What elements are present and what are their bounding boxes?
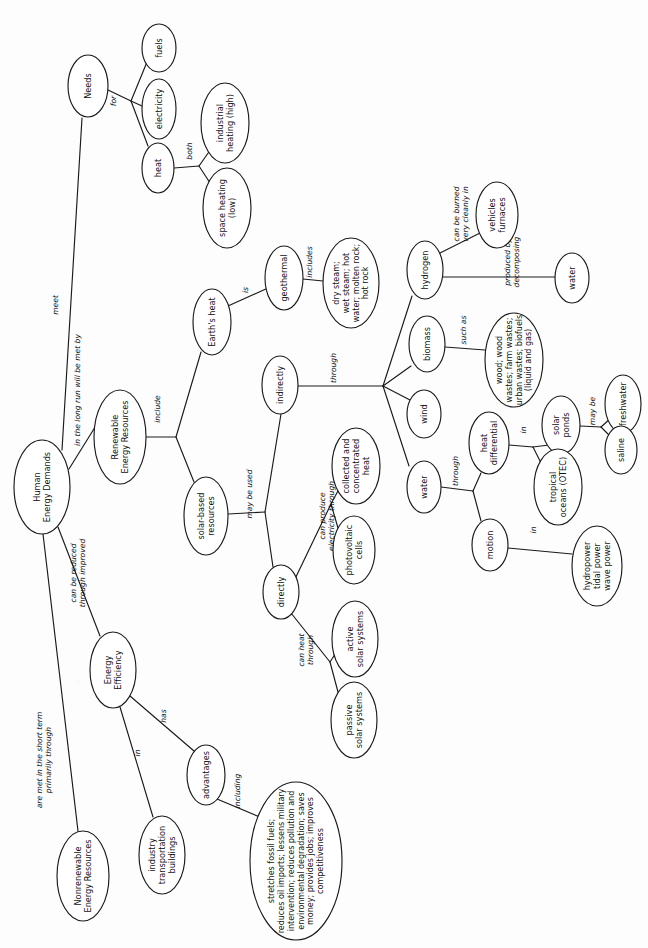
svg-text:may be: may be [588, 396, 597, 425]
edge-heat-to-junction_heat [174, 166, 199, 168]
node-nonrenewable_energy_resources[interactable]: NonrenewableEnergy Resources [57, 831, 109, 921]
node-label-indirectly: indirectly [275, 366, 285, 404]
edge-junction_rer-to-earths_heat [176, 352, 201, 437]
node-label-needs: Needs [83, 73, 93, 99]
svg-text:can be reducedthrough improved: can be reducedthrough improved [69, 539, 87, 608]
svg-text:in: in [133, 749, 142, 756]
edge-heat_differential-to-junction_hd [509, 445, 533, 447]
concept-map-canvas: meetforbothin the long run will be met b… [0, 0, 648, 948]
node-photovoltaic_cells[interactable]: photovoltaiccells [333, 516, 375, 584]
node-label-directly: directly [276, 577, 286, 608]
edge-label-solar_based_resources-to-junction_sbr: may be used [245, 469, 254, 518]
svg-text:such as: such as [459, 316, 468, 345]
edge-label-directly-to-junction_solar_heat: can heatthrough [297, 632, 315, 666]
edge-label-motion-to-hydro_tidal_wave: in [529, 526, 538, 533]
edge-junction_sbr-to-indirectly [265, 414, 281, 512]
svg-text:are met in the short termprima: are met in the short termprimarily throu… [35, 712, 53, 809]
edge-junction_indirect-to-hydrogen [383, 296, 412, 386]
node-indirectly[interactable]: indirectly [262, 356, 298, 414]
edge-label-heat_differential-to-junction_hd: in [519, 426, 528, 433]
svg-text:motion: motion [485, 531, 495, 560]
svg-text:advantages: advantages [201, 751, 211, 799]
node-earths_heat[interactable]: Earth's heat [193, 289, 231, 355]
node-saline[interactable]: saline [605, 426, 637, 474]
edge-junction_water-to-heat_differential [473, 473, 481, 491]
svg-text:in: in [529, 526, 538, 533]
node-industrial_heating[interactable]: industrialheating (high) [201, 83, 249, 163]
node-water_h2[interactable]: water [555, 253, 589, 303]
svg-text:saline: saline [616, 438, 626, 462]
edge-label-advantages-to-advantages_list: including [233, 774, 242, 809]
node-active_solar_systems[interactable]: activesolar systems [332, 601, 378, 677]
node-collected_concentrated_heat[interactable]: collected andconcentratedheat [332, 428, 380, 504]
node-passive_solar_systems[interactable]: passivesolar systems [331, 682, 377, 758]
node-needs[interactable]: Needs [68, 55, 108, 117]
edge-label-human_energy_demands-to-energy_efficiency: can be reducedthrough improved [69, 539, 87, 608]
node-industry_transportation_buildings[interactable]: industrytransportationbuildings [139, 816, 185, 894]
node-electricity[interactable]: electricity [142, 79, 176, 139]
svg-text:EnergyEfficiency: EnergyEfficiency [103, 650, 123, 690]
node-heat_differential[interactable]: heatdifferential [469, 412, 509, 474]
node-geothermal_types[interactable]: dry steam;wet steam; hotwater; molten ro… [323, 238, 379, 328]
node-energy_efficiency[interactable]: EnergyEfficiency [90, 632, 136, 708]
svg-text:vehiclesfurnaces: vehiclesfurnaces [487, 197, 507, 232]
node-solar_based_resources[interactable]: solar-basedresources [184, 477, 228, 555]
svg-text:meet: meet [51, 294, 60, 315]
node-label-freshwater: freshwater [618, 381, 628, 426]
edge-label-indirectly-to-junction_indirect: through [329, 353, 338, 383]
node-label-vehicles_furnaces: vehiclesfurnaces [487, 197, 507, 232]
node-wind[interactable]: wind [407, 390, 441, 438]
node-water[interactable]: water [407, 461, 441, 513]
edge-geothermal-to-geothermal_types [303, 279, 323, 281]
node-directly[interactable]: directly [263, 565, 299, 619]
svg-text:include: include [153, 395, 162, 423]
svg-text:fuels: fuels [154, 38, 164, 58]
node-tropical_oceans[interactable]: tropicaloceans (OTEC) [534, 449, 582, 525]
svg-text:electricity: electricity [154, 89, 164, 130]
node-advantages_list[interactable]: stretches fossil fuels;reduces oil impor… [250, 782, 342, 940]
node-renewable_energy_resources[interactable]: RenewableEnergy Resources [94, 390, 146, 484]
node-solar_ponds[interactable]: solarponds [542, 396, 580, 454]
edge-label-human_energy_demands-to-renewable_energy_resources: in the long run will be met by [73, 334, 82, 446]
node-label-electricity: electricity [154, 89, 164, 130]
node-advantages[interactable]: advantages [187, 745, 225, 805]
node-vehicles_furnaces[interactable]: vehiclesfurnaces [476, 182, 518, 248]
svg-text:directly: directly [276, 577, 286, 608]
node-human_energy_demands[interactable]: HumanEnergy Demands [14, 440, 70, 534]
edge-junction_indirect-to-biomass [383, 366, 411, 386]
edge-junction_sbr-to-directly [265, 512, 273, 567]
node-motion[interactable]: motion [472, 519, 508, 571]
edge-label-renewable_energy_resources-to-junction_rer: include [153, 395, 162, 423]
svg-text:in: in [519, 426, 528, 433]
svg-text:for: for [109, 95, 118, 106]
edge-junction_rer-to-solar_based_resources [176, 437, 194, 482]
svg-text:solarponds: solarponds [551, 413, 571, 438]
node-geothermal[interactable]: geothermal [265, 246, 303, 310]
node-heat[interactable]: heat [142, 143, 174, 193]
node-fuels[interactable]: fuels [142, 24, 176, 72]
edge-label-energy_efficiency-to-advantages: has [159, 709, 168, 722]
edge-biomass-to-biomass_types [445, 347, 485, 350]
node-biomass[interactable]: biomass [409, 316, 445, 372]
edge-label-heat-to-junction_heat: both [185, 142, 194, 159]
node-label-wind: wind [419, 404, 429, 423]
edge-label-water-to-junction_water: through [451, 456, 460, 486]
edge-label-solar_ponds-to-junction_sp: may be [588, 396, 597, 425]
svg-text:in the long run will be met by: in the long run will be met by [73, 334, 82, 446]
svg-text:can be burnedvery cleanly in: can be burnedvery cleanly in [452, 186, 470, 242]
edge-junction_water-to-motion [473, 491, 481, 521]
edge-junction_hd-to-solar_ponds [533, 445, 549, 447]
edge-label-earths_heat-to-geothermal: is [241, 287, 250, 293]
node-hydro_tidal_wave[interactable]: hydropowertidal powerwave power [572, 526, 622, 606]
node-hydrogen[interactable]: hydrogen [407, 241, 443, 299]
edge-energy_efficiency-to-industry_transportation_buildings [120, 707, 153, 817]
svg-text:water: water [567, 266, 577, 290]
node-space_heating[interactable]: space heating(low) [203, 168, 251, 248]
svg-text:through: through [451, 456, 460, 486]
node-biomass_types[interactable]: wood; woodwastes; farm wastes;urban wast… [485, 313, 543, 407]
node-freshwater[interactable]: freshwater [605, 375, 641, 433]
node-label-advantages: advantages [201, 751, 211, 799]
edge-water-to-junction_water [441, 487, 473, 491]
node-label-earths_heat: Earth's heat [207, 296, 217, 346]
edge-label-human_energy_demands-to-nonrenewable_energy_resources: are met in the short termprimarily throu… [35, 712, 53, 809]
